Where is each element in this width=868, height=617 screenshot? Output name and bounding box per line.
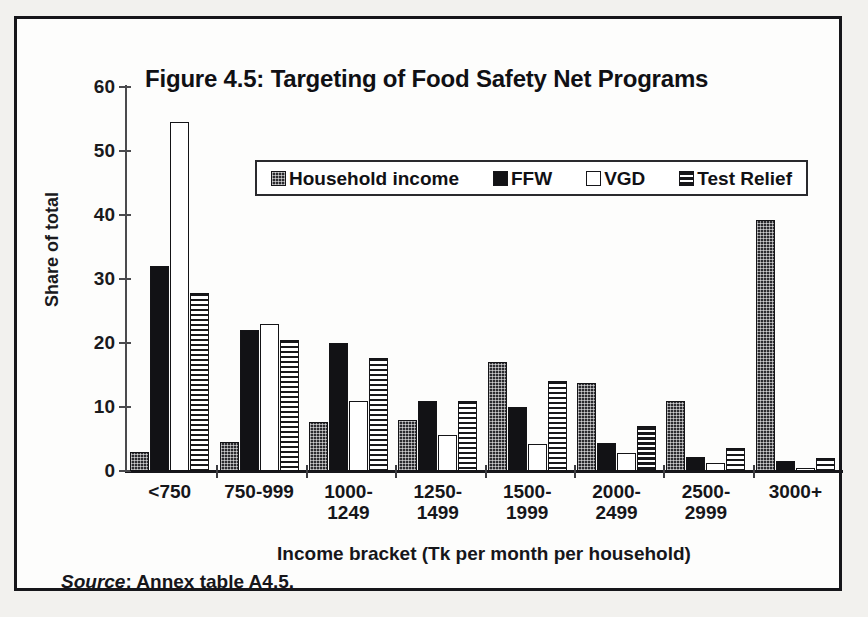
x-axis-tick-label-line: 2500- [661, 481, 750, 502]
x-axis-separator-tick [485, 465, 487, 478]
y-axis-tick-label: 20 [69, 333, 115, 352]
bar[interactable] [796, 468, 815, 471]
x-axis-tick-label: 1000-1249 [304, 481, 393, 523]
bar-group [663, 87, 752, 471]
source-text: : Annex table A4.5. [125, 571, 294, 592]
bar-group [127, 87, 216, 471]
plot-area [127, 87, 842, 471]
bar[interactable] [637, 426, 656, 471]
bar[interactable] [170, 122, 189, 471]
x-axis-tick-label-line: 750-999 [214, 481, 303, 502]
x-axis-tick-labels: <750750-9991000-12491250-14991500-199920… [125, 481, 843, 535]
bar-group [753, 87, 842, 471]
bar[interactable] [220, 442, 239, 471]
bar-group [306, 87, 395, 471]
x-axis-tick-label-line: 1500- [483, 481, 572, 502]
bar[interactable] [240, 330, 259, 471]
source-note: Source: Annex table A4.5. [61, 571, 294, 593]
x-axis-tick-label-line: 1250- [393, 481, 482, 502]
y-axis-tick-label: 0 [69, 461, 115, 480]
x-axis-tick-label-line: 3000+ [751, 481, 840, 502]
bar[interactable] [597, 443, 616, 471]
bar[interactable] [329, 343, 348, 471]
bar[interactable] [706, 463, 725, 471]
source-label: Source [61, 571, 125, 592]
x-axis-tick-label: 3000+ [751, 481, 840, 502]
x-axis-tick-label-line: 1499 [393, 502, 482, 523]
bar[interactable] [528, 444, 547, 471]
bar[interactable] [438, 435, 457, 471]
bar[interactable] [418, 401, 437, 471]
x-axis-separator-tick [753, 465, 755, 478]
x-axis-separator-tick [306, 465, 308, 478]
x-axis-tick-label: 750-999 [214, 481, 303, 502]
bar[interactable] [150, 266, 169, 471]
y-axis-tick-label: 30 [69, 269, 115, 288]
bar[interactable] [666, 401, 685, 471]
y-axis-tick-label: 40 [69, 205, 115, 224]
x-axis-tick-label-line: 1000- [304, 481, 393, 502]
bar[interactable] [349, 401, 368, 471]
y-axis-title: Share of total [42, 155, 63, 345]
y-axis-tick-labels: 0102030405060 [59, 19, 115, 539]
bar-group [485, 87, 574, 471]
bar[interactable] [617, 453, 636, 471]
bar[interactable] [369, 358, 388, 471]
bar[interactable] [548, 381, 567, 471]
bar[interactable] [508, 407, 527, 471]
x-axis-separator-tick [395, 465, 397, 478]
x-axis-separator-tick [663, 465, 665, 478]
x-axis-separator-tick [216, 465, 218, 478]
bar[interactable] [309, 422, 328, 471]
bar[interactable] [686, 457, 705, 471]
x-axis-tick-label-line: 2499 [572, 502, 661, 523]
x-axis-separator-tick [574, 465, 576, 478]
x-axis-tick-label: 1250-1499 [393, 481, 482, 523]
bar[interactable] [816, 458, 835, 471]
bar[interactable] [280, 340, 299, 471]
x-axis-tick-label-line: 1249 [304, 502, 393, 523]
x-axis-title: Income bracket (Tk per month per househo… [125, 543, 843, 565]
bar[interactable] [190, 293, 209, 471]
bar-group [216, 87, 305, 471]
bar-group [395, 87, 484, 471]
bar[interactable] [726, 448, 745, 471]
bar[interactable] [260, 324, 279, 471]
x-axis-tick-label: <750 [125, 481, 214, 502]
y-axis-tick-label: 10 [69, 397, 115, 416]
y-axis-tick-label: 60 [69, 77, 115, 96]
bar[interactable] [398, 420, 417, 471]
bar[interactable] [458, 401, 477, 471]
x-axis-tick-label: 1500-1999 [483, 481, 572, 523]
y-axis-tick-label: 50 [69, 141, 115, 160]
bar-group [574, 87, 663, 471]
x-axis-tick-label-line: 1999 [483, 502, 572, 523]
x-axis-tick-label: 2000-2499 [572, 481, 661, 523]
bar[interactable] [577, 383, 596, 471]
bar[interactable] [130, 452, 149, 471]
bar[interactable] [776, 461, 795, 471]
x-axis-tick-label-line: 2999 [661, 502, 750, 523]
x-axis-tick-label-line: 2000- [572, 481, 661, 502]
bar[interactable] [756, 220, 775, 471]
x-axis-tick-label: 2500-2999 [661, 481, 750, 523]
x-axis-tick-label-line: <750 [125, 481, 214, 502]
bar[interactable] [488, 362, 507, 471]
figure-frame: 0102030405060 Share of total Figure 4.5:… [14, 16, 842, 591]
